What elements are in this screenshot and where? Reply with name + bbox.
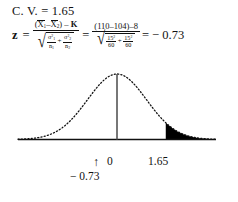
z-equation-line: z = (X1–X2) – K √ σ21 n1 + — [12, 20, 238, 50]
symbolic-denominator: √ σ21 n1 + σ22 n2 — [36, 31, 77, 51]
numeric-denominator: √ 152 60 + 152 60 — [95, 32, 137, 48]
test-statistic-arrow-icon: ↑ — [93, 156, 99, 168]
symbolic-fraction: (X1–X2) – K √ σ21 n1 + σ22 n2 — [33, 20, 80, 50]
radical-symbolic: √ σ21 n1 + σ22 n2 — [38, 32, 75, 51]
equals-sign-1: = — [20, 28, 33, 43]
normal-curve-figure — [0, 58, 238, 148]
sigma2-over-n2: σ22 n2 — [63, 34, 72, 51]
radical-numeric: √ 152 60 + 152 60 — [97, 33, 135, 48]
k-term: K — [71, 19, 78, 29]
critical-value-label: 1.65 — [148, 155, 168, 168]
curve-group — [18, 74, 216, 140]
x2-bar: X2 — [51, 20, 60, 30]
numeric-fraction: (110–104)–8 √ 152 60 + 152 60 — [92, 22, 140, 48]
fifteen-sq-over-sixty-2: 152 60 — [123, 35, 133, 48]
radical-sign-icon: √ — [38, 27, 46, 50]
normal-curve-svg — [0, 58, 238, 148]
z-variable: z — [12, 28, 20, 43]
critical-value-line: C. V. = 1.65 — [12, 4, 238, 18]
plus-symbolic: + — [56, 38, 63, 45]
radical-sign-icon-2: √ — [97, 28, 105, 47]
fifteen-sq-over-sixty-1: 152 60 — [106, 35, 116, 48]
plus-numeric: + — [116, 38, 123, 45]
zero-label: 0 — [107, 155, 113, 168]
equals-sign-2: = — [79, 28, 92, 43]
z-result: = − 0.73 — [140, 28, 184, 43]
formula-block: C. V. = 1.65 z = (X1–X2) – K √ σ21 n1 — [12, 4, 238, 50]
figure-page: C. V. = 1.65 z = (X1–X2) – K √ σ21 n1 — [0, 0, 238, 202]
sigma1-over-n1: σ21 n1 — [47, 34, 56, 51]
test-statistic-label: − 0.73 — [70, 170, 100, 183]
axis-label-group: ↑ 0 1.65 − 0.73 — [0, 146, 238, 202]
